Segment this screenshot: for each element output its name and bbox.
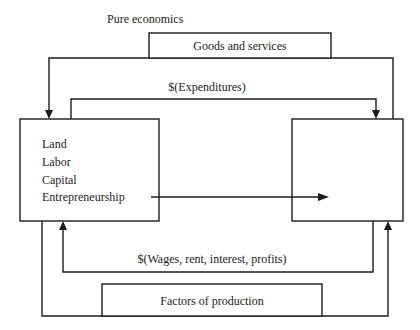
resource-item-entrepreneurship: Entrepreneurship (42, 190, 125, 204)
arrow-down-icon (45, 110, 53, 119)
arrow-down-icon (372, 110, 380, 119)
firms-box (292, 119, 403, 221)
expenditures-flow-line (71, 99, 376, 119)
resource-owners-box: Land Labor Capital Entrepreneurship (20, 119, 159, 221)
factors-label: Factors of production (160, 294, 263, 308)
incomes-label: $(Wages, rent, interest, profits) (138, 252, 287, 266)
resource-owners-rect (20, 119, 159, 221)
factors-flow: Factors of production (42, 221, 392, 316)
arrow-up-icon (59, 221, 67, 230)
resource-item-labor: Labor (42, 155, 71, 169)
diagram-title: Pure economics (107, 12, 184, 26)
goods-flow: Goods and services (45, 33, 393, 119)
incomes-flow: $(Wages, rent, interest, profits) (59, 221, 373, 272)
expenditures-label: $(Expenditures) (168, 80, 245, 94)
expenditures-flow: $(Expenditures) (71, 80, 380, 119)
resource-item-capital: Capital (42, 173, 77, 187)
goods-label: Goods and services (193, 39, 287, 53)
arrow-up-icon (384, 221, 392, 230)
resource-item-land: Land (42, 137, 67, 151)
circular-flow-diagram: Pure economics Goods and services $(Expe… (0, 0, 420, 330)
